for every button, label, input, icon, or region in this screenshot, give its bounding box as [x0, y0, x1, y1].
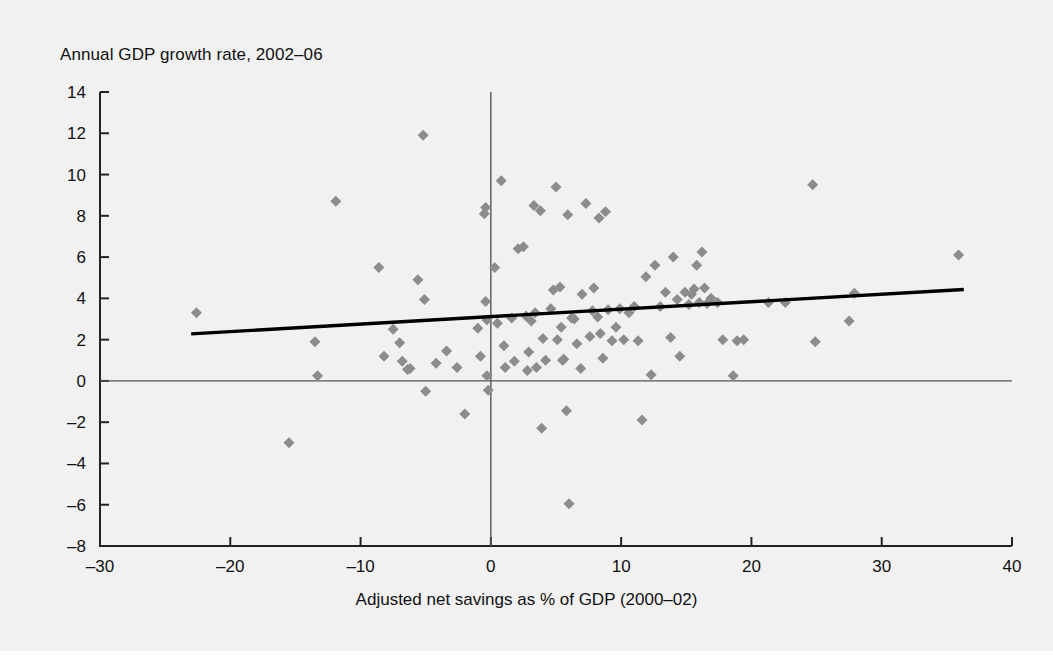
y-axis-tick-label: 2	[77, 331, 86, 350]
data-point-marker	[420, 386, 431, 397]
data-point-marker	[472, 323, 483, 334]
scatter-chart-figure: Annual GDP growth rate, 2002–06 –8–6–4–2…	[0, 0, 1053, 669]
y-axis-tick-label: –6	[67, 496, 86, 515]
data-point-marker	[584, 331, 595, 342]
data-point-marker	[561, 405, 572, 416]
x-axis-tick-label: 20	[742, 557, 761, 576]
data-point-marker	[646, 369, 657, 380]
data-point-marker	[665, 332, 676, 343]
data-point-marker	[595, 328, 606, 339]
data-point-marker	[388, 324, 399, 335]
data-point-marker	[537, 333, 548, 344]
data-point-marker	[699, 283, 710, 294]
data-point-marker	[597, 353, 608, 364]
trendline-group	[191, 289, 964, 333]
y-axis-tick-label: –2	[67, 413, 86, 432]
data-point-marker	[475, 351, 486, 362]
x-axis-title: Adjusted net savings as % of GDP (2000–0…	[0, 590, 1053, 610]
chart-canvas: –8–6–4–202468101214–30–20–10010203040	[0, 0, 1053, 669]
data-point-marker	[696, 246, 707, 257]
x-axis-tick-label: –10	[346, 557, 374, 576]
x-axis-tick-label: –30	[86, 557, 114, 576]
data-point-marker	[312, 370, 323, 381]
reference-lines-group	[100, 92, 1012, 546]
x-axis-tick-label: 0	[486, 557, 495, 576]
data-point-marker	[480, 296, 491, 307]
data-point-marker	[650, 260, 661, 271]
data-point-marker	[564, 498, 575, 509]
y-axis-tick-label: 14	[67, 83, 86, 102]
data-point-marker	[953, 250, 964, 261]
data-point-marker	[536, 423, 547, 434]
data-point-marker	[394, 337, 405, 348]
data-point-marker	[575, 363, 586, 374]
data-point-marker	[660, 287, 671, 298]
data-point-marker	[500, 362, 511, 373]
data-point-marker	[672, 294, 683, 305]
axes-group	[100, 92, 1012, 546]
data-point-marker	[717, 334, 728, 345]
data-point-marker	[431, 358, 442, 369]
data-point-marker	[451, 362, 462, 373]
data-point-marker	[283, 437, 294, 448]
data-point-marker	[552, 334, 563, 345]
y-axis-tick-label: 10	[67, 166, 86, 185]
data-point-marker	[607, 335, 618, 346]
x-axis-tick-label: 40	[1003, 557, 1022, 576]
data-point-marker	[588, 283, 599, 294]
data-point-marker	[551, 181, 562, 192]
data-point-marker	[418, 130, 429, 141]
data-point-marker	[691, 260, 702, 271]
data-point-marker	[807, 179, 818, 190]
y-axis-tick-label: 4	[77, 289, 86, 308]
data-point-marker	[309, 336, 320, 347]
y-axis-tick-label: 12	[67, 124, 86, 143]
data-point-marker	[556, 322, 567, 333]
data-point-marker	[540, 355, 551, 366]
data-point-marker	[580, 198, 591, 209]
y-axis-tick-label: 8	[77, 207, 86, 226]
data-point-marker	[562, 209, 573, 220]
x-axis-tick-label: 10	[612, 557, 631, 576]
y-axis-tick-label: –8	[67, 537, 86, 556]
data-point-marker	[379, 351, 390, 362]
data-point-marker	[412, 274, 423, 285]
data-point-marker	[844, 316, 855, 327]
y-axis-tick-label: 6	[77, 248, 86, 267]
axis-spines	[100, 92, 1012, 546]
data-point-marker	[640, 271, 651, 282]
data-point-marker	[496, 175, 507, 186]
data-point-marker	[419, 294, 430, 305]
x-axis-tick-label: 30	[872, 557, 891, 576]
x-axis-tick-label: –20	[216, 557, 244, 576]
data-point-marker	[728, 370, 739, 381]
tick-labels-group: –8–6–4–202468101214–30–20–10010203040	[67, 83, 1021, 576]
data-point-marker	[191, 307, 202, 318]
data-point-marker	[636, 415, 647, 426]
data-point-marker	[397, 356, 408, 367]
data-point-marker	[522, 365, 533, 376]
data-point-marker	[610, 322, 621, 333]
data-point-marker	[810, 336, 821, 347]
data-point-marker	[523, 347, 534, 358]
data-point-marker	[618, 334, 629, 345]
data-point-marker	[498, 340, 509, 351]
data-point-marker	[509, 356, 520, 367]
data-point-marker	[674, 351, 685, 362]
data-point-marker	[373, 262, 384, 273]
data-point-marker	[577, 289, 588, 300]
data-point-marker	[571, 338, 582, 349]
trendline	[191, 289, 964, 333]
data-points-group	[191, 130, 964, 509]
data-point-marker	[441, 345, 452, 356]
data-point-marker	[483, 385, 494, 396]
y-axis-tick-label: –4	[67, 454, 86, 473]
data-point-marker	[668, 252, 679, 263]
data-point-marker	[330, 196, 341, 207]
y-axis-tick-label: 0	[77, 372, 86, 391]
data-point-marker	[531, 362, 542, 373]
data-point-marker	[459, 408, 470, 419]
data-point-marker	[492, 318, 503, 329]
data-point-marker	[633, 335, 644, 346]
